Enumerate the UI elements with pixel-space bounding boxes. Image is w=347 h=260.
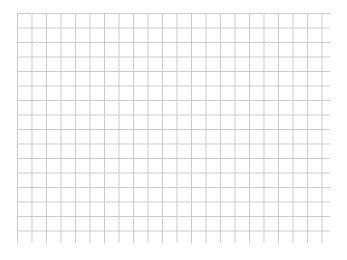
graph-paper-grid xyxy=(17,13,330,243)
screenshot-canvas xyxy=(0,0,347,260)
